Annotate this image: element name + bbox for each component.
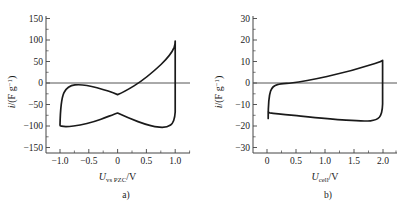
panel-a: 150 100 50 0 −50 −100 −150 −1.0 −0.5 0 0… xyxy=(0,0,205,207)
x-tick-label: 2.0 xyxy=(377,156,389,166)
panel-a-axes xyxy=(46,16,190,153)
y-tick-label: 150 xyxy=(29,14,44,24)
y-tick-label: −100 xyxy=(23,121,43,131)
y-tick-label: 100 xyxy=(29,35,44,45)
y-tick-label: 0 xyxy=(38,78,43,88)
y-axis-title-sup: −1 xyxy=(6,79,13,86)
panel-b-svg: 30 20 10 0 −10 −20 −30 0 0.5 1.0 1.5 2.0… xyxy=(205,0,410,207)
panel-b-y-tick-labels: 30 20 10 0 −10 −20 −30 xyxy=(235,14,250,153)
y-tick-label: −150 xyxy=(23,143,43,153)
panel-b-label: b) xyxy=(324,190,332,201)
x-axis-title-tail: /V xyxy=(329,171,340,182)
y-tick-label: 30 xyxy=(241,14,251,24)
panel-a-y-axis-title: i/(F g−1) xyxy=(6,76,18,109)
x-tick-label: 1.5 xyxy=(348,156,360,166)
y-axis-title-rest: /(F g xyxy=(213,86,225,105)
y-tick-label: −50 xyxy=(28,100,43,110)
panel-b-axes xyxy=(253,16,397,153)
y-tick-label: −30 xyxy=(235,143,250,153)
panel-a-x-tick-labels: −1.0 −0.5 0 0.5 1.0 xyxy=(51,156,181,166)
x-axis-title-tail: /V xyxy=(126,171,137,182)
x-tick-label: 1.0 xyxy=(169,156,181,166)
x-tick-label: −1.0 xyxy=(51,156,68,166)
y-axis-title-sup: −1 xyxy=(213,79,220,86)
x-tick-label: 0 xyxy=(265,156,270,166)
panel-b-x-ticks xyxy=(267,149,383,153)
panel-a-x-axis-title: Uvs PZC/V xyxy=(99,171,137,183)
y-axis-title-close: ) xyxy=(213,76,225,79)
y-axis-title-close: ) xyxy=(6,76,18,79)
x-axis-title-sub: cell xyxy=(319,176,329,183)
y-tick-label: −10 xyxy=(235,100,250,110)
y-tick-label: −20 xyxy=(235,121,250,131)
x-tick-label: 1.0 xyxy=(319,156,331,166)
panel-b-y-axis-title: i/(F g−1) xyxy=(213,76,225,109)
x-tick-label: 0 xyxy=(115,156,120,166)
panel-a-label: a) xyxy=(122,190,129,201)
panel-a-svg: 150 100 50 0 −50 −100 −150 −1.0 −0.5 0 0… xyxy=(0,0,205,207)
panel-b-cv-curve xyxy=(268,60,382,121)
y-axis-title-rest: /(F g xyxy=(6,86,18,105)
y-tick-label: 20 xyxy=(241,35,251,45)
panel-a-x-ticks xyxy=(60,149,175,153)
x-tick-label: −0.5 xyxy=(80,156,97,166)
panel-b-x-tick-labels: 0 0.5 1.0 1.5 2.0 xyxy=(265,156,390,166)
y-tick-label: 10 xyxy=(241,57,251,67)
y-tick-label: 50 xyxy=(34,57,44,67)
panel-b-x-axis-title: Ucell/V xyxy=(311,171,339,183)
panel-b: 30 20 10 0 −10 −20 −30 0 0.5 1.0 1.5 2.0… xyxy=(205,0,410,207)
x-tick-label: 0.5 xyxy=(290,156,302,166)
x-axis-title-sub: vs PZC xyxy=(106,176,127,183)
x-tick-label: 0.5 xyxy=(140,156,152,166)
panel-a-cv-curve xyxy=(60,41,175,127)
figure-container: 150 100 50 0 −50 −100 −150 −1.0 −0.5 0 0… xyxy=(0,0,410,207)
y-tick-label: 0 xyxy=(245,78,250,88)
panel-a-y-tick-labels: 150 100 50 0 −50 −100 −150 xyxy=(23,14,43,153)
